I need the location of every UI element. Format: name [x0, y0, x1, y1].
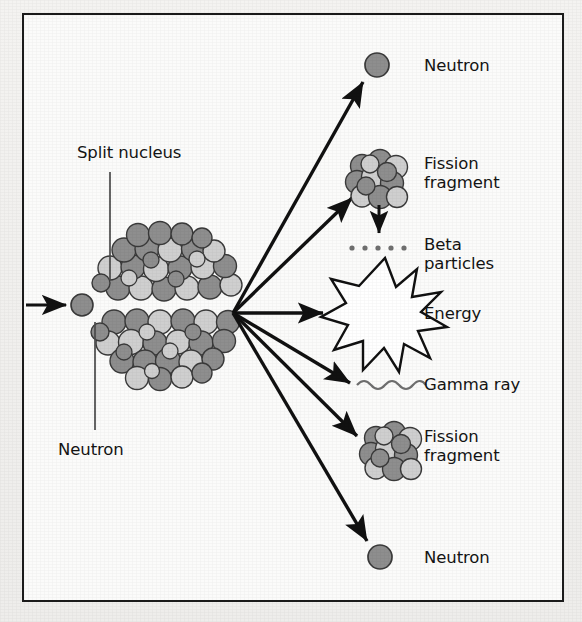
label-beta-particles: Beta particles [424, 235, 494, 274]
neutron-top-circle [365, 53, 389, 77]
gamma-ray-wave [357, 381, 426, 389]
label-neutron-bottom: Neutron [424, 548, 490, 567]
neutron-bottom-circle [368, 545, 392, 569]
fission-diagram [0, 0, 582, 622]
arrow-to-neutron-top [233, 82, 363, 313]
fission-fragment-bottom-cluster [360, 422, 422, 481]
nucleus-top-half [92, 222, 242, 302]
fission-fragment-top-cluster [346, 150, 408, 209]
nucleus-bottom-half [91, 309, 240, 391]
label-neutron-top: Neutron [424, 56, 490, 75]
label-energy: Energy [424, 304, 481, 323]
label-fission-fragment-top: Fission fragment [424, 154, 500, 193]
label-fission-fragment-bottom: Fission fragment [424, 427, 500, 466]
arrow-to-fragment-top [233, 198, 352, 313]
incoming-neutron-circle [71, 294, 93, 316]
label-neutron-in: Neutron [58, 440, 124, 459]
beta-particles-dots [349, 245, 406, 250]
label-gamma-ray: Gamma ray [424, 375, 520, 394]
label-split-nucleus: Split nucleus [77, 143, 181, 162]
